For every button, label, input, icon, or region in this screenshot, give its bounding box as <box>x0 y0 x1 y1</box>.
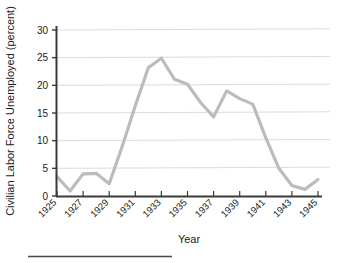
y-axis-title: Civilian Labor Force Unemployed (percent… <box>4 6 16 216</box>
y-tick-label-30: 30 <box>37 25 49 36</box>
y-tick-label-15: 15 <box>37 108 49 119</box>
y-tick-label-20: 20 <box>37 80 49 91</box>
y-tick-label-25: 25 <box>37 52 49 63</box>
y-tick-label-0: 0 <box>42 191 48 202</box>
unemployment-line-chart: 1925192719291931193319351937193919411943… <box>0 0 338 263</box>
chart-figure: 1925192719291931193319351937193919411943… <box>0 0 338 263</box>
y-tick-label-5: 5 <box>42 163 48 174</box>
x-axis-title: Year <box>178 233 201 245</box>
y-tick-label-10: 10 <box>37 135 49 146</box>
chart-background <box>0 0 338 263</box>
